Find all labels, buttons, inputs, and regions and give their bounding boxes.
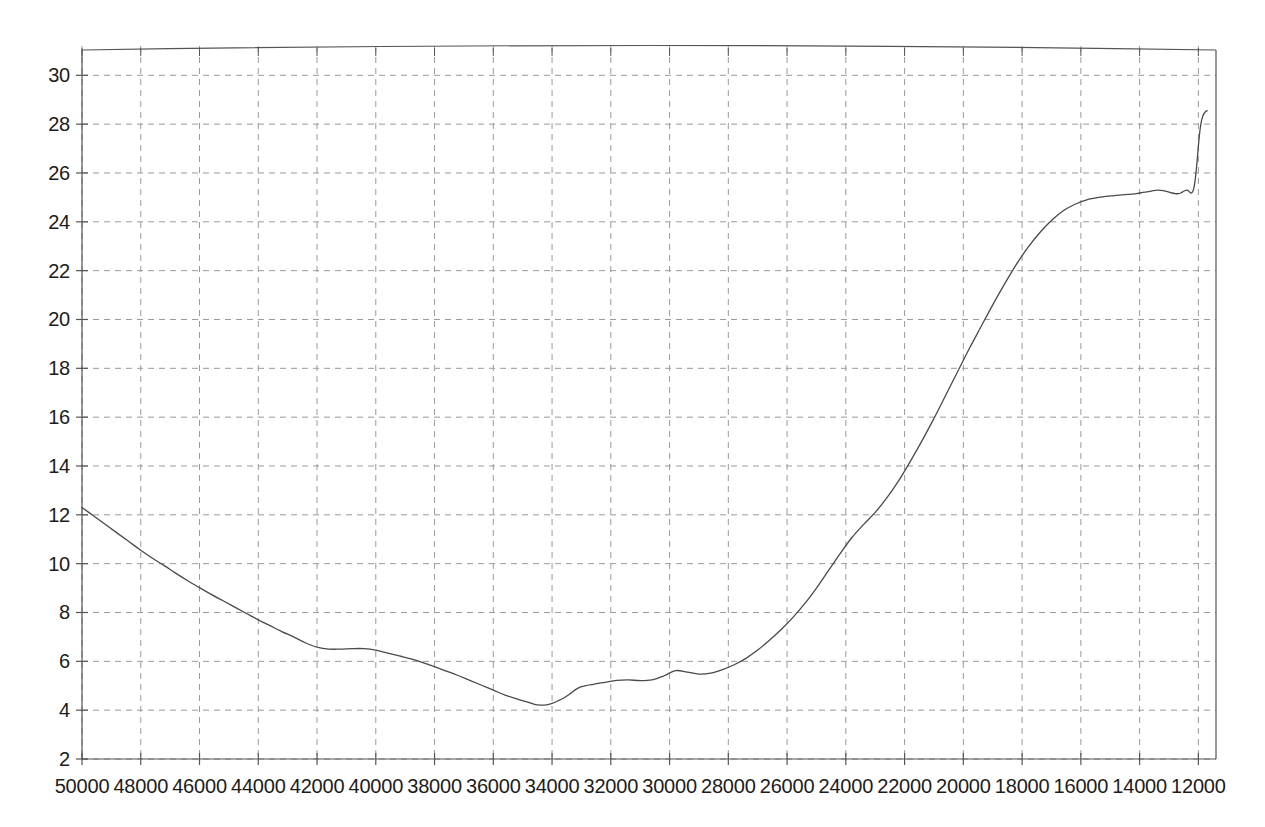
x-tick-label: 40000 <box>348 775 403 798</box>
x-tick-label: 34000 <box>525 775 580 798</box>
y-tick-label: 30 <box>14 64 70 87</box>
y-tick-label: 12 <box>14 503 70 526</box>
x-tick-label: 36000 <box>466 775 521 798</box>
y-tick-label: 18 <box>14 357 70 380</box>
x-tick-label: 44000 <box>231 775 286 798</box>
y-tick-label: 24 <box>14 210 70 233</box>
grid-layer <box>82 46 1216 759</box>
y-tick-label: 4 <box>14 699 70 722</box>
y-tick-label: 22 <box>14 259 70 282</box>
data-series-layer <box>82 111 1207 705</box>
x-tick-label: 18000 <box>995 775 1050 798</box>
x-tick-label: 28000 <box>701 775 756 798</box>
axis-ticks <box>76 48 1198 765</box>
frame-top <box>82 46 1216 51</box>
x-tick-label: 20000 <box>936 775 991 798</box>
x-tick-label: 14000 <box>1112 775 1167 798</box>
y-tick-label: 8 <box>14 601 70 624</box>
chart-container: 24681012141618202224262830 5000048000460… <box>0 0 1265 827</box>
y-tick-label: 2 <box>14 748 70 771</box>
x-tick-label: 42000 <box>290 775 345 798</box>
y-tick-label: 20 <box>14 308 70 331</box>
y-tick-label: 28 <box>14 113 70 136</box>
x-tick-label: 50000 <box>55 775 110 798</box>
x-tick-label: 12000 <box>1171 775 1226 798</box>
x-tick-label: 32000 <box>583 775 638 798</box>
y-tick-label: 6 <box>14 650 70 673</box>
x-tick-label: 24000 <box>819 775 874 798</box>
x-tick-label: 48000 <box>113 775 168 798</box>
y-tick-label: 14 <box>14 454 70 477</box>
plot-frame <box>82 46 1216 760</box>
x-tick-label: 46000 <box>172 775 227 798</box>
spectrum-plot <box>0 0 1265 827</box>
y-tick-label: 10 <box>14 552 70 575</box>
x-tick-label: 22000 <box>877 775 932 798</box>
x-tick-label: 38000 <box>407 775 462 798</box>
x-tick-label: 16000 <box>1054 775 1109 798</box>
x-tick-label: 30000 <box>642 775 697 798</box>
data-line-spectrum <box>82 111 1207 705</box>
y-tick-label: 16 <box>14 406 70 429</box>
x-tick-label: 26000 <box>760 775 815 798</box>
y-tick-label: 26 <box>14 161 70 184</box>
